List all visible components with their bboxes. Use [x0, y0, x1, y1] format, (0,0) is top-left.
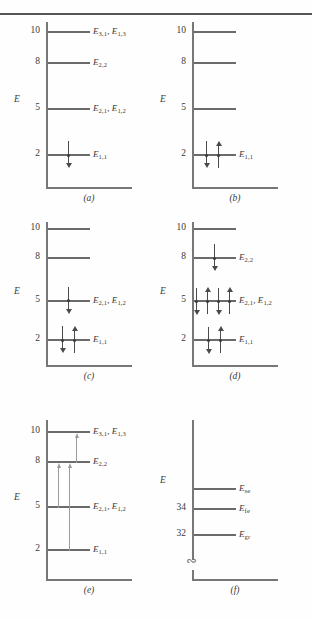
panel-e-x-axis — [46, 579, 132, 581]
panel-b-level-2 — [194, 154, 236, 156]
panel-f-level-se — [194, 488, 236, 490]
header-rule — [0, 13, 312, 15]
panel-f-level-gr — [194, 534, 236, 536]
panel-d-statelabel-8: E2,2 — [239, 252, 253, 262]
panel-d-tick-10: 10 — [160, 222, 186, 232]
panel-a-statelabel-8: E2,2 — [93, 57, 107, 67]
panel-a-axis-label: E — [14, 94, 20, 104]
panel-c-tick-10: 10 — [14, 222, 40, 232]
panel-e-level-10 — [48, 431, 90, 433]
panel-d-spin-down-8 — [214, 244, 215, 267]
panel-f-statelabel-gr: Egr — [239, 529, 250, 539]
panel-e-transition-8-to-10 — [76, 437, 77, 463]
panel-b-electron-dot-1 — [205, 154, 209, 158]
panel-b-level-8 — [194, 62, 236, 64]
panel-b-tick-8: 8 — [160, 56, 186, 66]
panel-a-level-8 — [48, 62, 90, 64]
panel-e-axis-label: E — [14, 492, 20, 502]
panel-f-statelabel-se: Ese — [239, 483, 250, 493]
panel-d-caption: (d) — [192, 371, 278, 381]
panel-d-electron-dot-5a — [195, 300, 199, 304]
panel-c-caption: (c) — [46, 371, 132, 381]
panel-c-spin-down-2 — [62, 326, 63, 349]
panel-f-tick-32: 32 — [160, 528, 186, 538]
panel-b-axis-label: E — [160, 94, 166, 104]
panel-e-tick-10: 10 — [14, 425, 40, 435]
panel-a-statelabel-10: E3,1, E1,3 — [93, 26, 126, 36]
panel-f-level-fe — [194, 508, 236, 510]
panel-f-statelabel-fe: Efe — [239, 503, 250, 513]
panel-b-x-axis — [192, 187, 278, 189]
panel-a-tick-8: 8 — [14, 56, 40, 66]
panel-f-x-axis — [192, 579, 278, 581]
panel-a-caption: (a) — [46, 193, 132, 203]
panel-d-statelabel-5: E2,1, E1,2 — [239, 295, 272, 305]
panel-d-level-2 — [194, 339, 236, 341]
panel-f-axis-label: E — [160, 475, 166, 485]
panel-b-tick-2: 2 — [160, 148, 186, 158]
panel-c-axis-label: E — [14, 286, 20, 296]
panel-d-electron-dot-5d — [228, 300, 232, 304]
panel-a-statelabel-2: E1,1 — [93, 149, 107, 159]
panel-e-tick-2: 2 — [14, 543, 40, 553]
energy-level-figure: 10 8 5 2 E E3,1, E1,3 E2,2 E2,1, E1,2 E1… — [0, 0, 312, 620]
panel-c-level-2 — [48, 339, 90, 341]
panel-a-spin-down — [68, 141, 69, 164]
panel-e-statelabel-8: E2,2 — [93, 456, 107, 466]
panel-e-tick-8: 8 — [14, 455, 40, 465]
panel-c-x-axis — [46, 365, 132, 367]
panel-c-level-8 — [48, 257, 90, 259]
panel-a-level-5 — [48, 108, 90, 110]
panel-a-tick-10: 10 — [14, 25, 40, 35]
panel-d-x-axis — [192, 365, 278, 367]
panel-d-tick-2: 2 — [160, 333, 186, 343]
panel-b-spin-down — [206, 141, 207, 164]
panel-a-x-axis — [46, 187, 132, 189]
panel-c-y-axis — [46, 222, 48, 366]
panel-b-statelabel-2: E1,1 — [239, 149, 253, 159]
panel-e-statelabel-2: E1,1 — [93, 544, 107, 554]
panel-c-tick-2: 2 — [14, 333, 40, 343]
panel-e-statelabel-10: E3,1, E1,3 — [93, 426, 126, 436]
panel-d-electron-dot-5b — [206, 300, 210, 304]
panel-d-y-axis — [192, 222, 194, 366]
panel-c-level-10 — [48, 228, 90, 230]
panel-d-axis-label: E — [160, 286, 166, 296]
panel-e-transition-5-to-8 — [58, 467, 59, 508]
panel-d-electron-dot-2b — [219, 339, 223, 343]
panel-b-electron-dot-2 — [217, 154, 221, 158]
panel-e-y-axis — [46, 420, 48, 580]
panel-b-y-axis — [192, 22, 194, 188]
panel-f-axis-break-icon: ∾ — [186, 554, 197, 567]
panel-b-tick-10: 10 — [160, 25, 186, 35]
panel-b-caption: (b) — [192, 193, 278, 203]
panel-c-tick-8: 8 — [14, 251, 40, 261]
panel-a-y-axis — [46, 22, 48, 188]
panel-c-electron-dot-2a — [61, 339, 65, 343]
panel-a-electron-dot — [67, 154, 71, 158]
panel-a-statelabel-5: E2,1, E1,2 — [93, 103, 126, 113]
panel-c-statelabel-5: E2,1, E1,2 — [93, 295, 126, 305]
panel-e-transition-2-to-8 — [69, 467, 70, 551]
panel-d-electron-dot-8 — [213, 257, 217, 261]
panel-b-level-5 — [194, 108, 236, 110]
panel-a-level-10 — [48, 31, 90, 33]
panel-d-level-10 — [194, 228, 236, 230]
panel-b-level-10 — [194, 31, 236, 33]
panel-d-electron-dot-5c — [217, 300, 221, 304]
panel-e-caption: (e) — [46, 585, 132, 595]
panel-d-electron-dot-2a — [207, 339, 211, 343]
panel-c-statelabel-2: E1,1 — [93, 334, 107, 344]
panel-f-caption: (f) — [192, 585, 278, 595]
panel-a-tick-2: 2 — [14, 148, 40, 158]
panel-d-tick-8: 8 — [160, 251, 186, 261]
panel-e-statelabel-5: E2,1, E1,2 — [93, 501, 126, 511]
panel-d-statelabel-2: E1,1 — [239, 334, 253, 344]
panel-c-electron-dot-2b — [73, 339, 77, 343]
panel-f-tick-34: 34 — [160, 502, 186, 512]
